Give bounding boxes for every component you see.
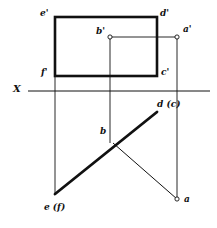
point-label-e-prime: e'	[40, 9, 48, 18]
point-marker-a	[175, 197, 179, 201]
edge-b-to-a	[113, 143, 177, 199]
point-label-a: a	[184, 195, 190, 204]
point-label-b: b	[100, 127, 106, 136]
figure-canvas: X e' d' b' a' f' c' b d (c) e (f) a	[0, 0, 217, 228]
point-label-c-prime: c'	[161, 68, 169, 77]
point-label-e-f: e (f)	[44, 203, 65, 212]
top-view-edge-e-to-d	[55, 112, 157, 194]
thin-line-group	[55, 37, 177, 199]
point-marker-group	[108, 35, 179, 201]
front-view-rectangle	[55, 17, 157, 76]
point-marker-a-prime	[175, 35, 179, 39]
axis-label-x: X	[13, 84, 21, 94]
point-label-f-prime: f'	[41, 68, 48, 77]
point-label-d-c: d (c)	[157, 100, 180, 109]
point-label-d-prime: d'	[160, 9, 169, 18]
point-label-b-prime: b'	[96, 27, 105, 36]
point-marker-b-prime	[108, 35, 112, 39]
point-label-a-prime: a'	[183, 25, 192, 34]
